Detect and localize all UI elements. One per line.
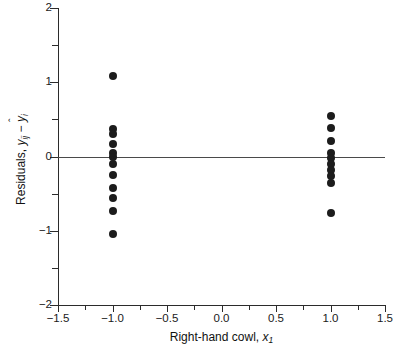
x-tick-major [276,305,277,312]
x-tick-label: −1.5 [30,312,86,324]
data-point [109,130,117,138]
data-point [109,207,117,215]
data-point [109,184,117,192]
x-tick-label: −0.5 [139,312,195,324]
x-tick-major [58,305,59,312]
x-tick-major [331,305,332,312]
x-tick-label: 0.5 [248,312,304,324]
x-tick-minor [249,305,250,310]
data-point [327,179,335,187]
x-tick-minor [194,305,195,310]
y-tick-minor [52,194,58,195]
x-tick-major [385,305,386,312]
x-axis-title-prefix: Right-hand cowl, [170,330,263,344]
x-tick-label: 0.0 [194,312,250,324]
data-point [109,140,117,148]
x-tick-label: −1.0 [85,312,141,324]
x-tick-label: 1.5 [357,312,401,324]
data-point [109,171,117,179]
data-point [109,194,117,202]
residual-scatter-figure: −2−1012−1.5−1.0−0.50.00.51.01.5 Right-ha… [0,0,401,352]
x-tick-minor [85,305,86,310]
y-axis-title-subscript-ij: ij [20,136,30,140]
y-axis-title: Residuals, yij − ˆyi [14,50,29,270]
data-point [327,112,335,120]
y-tick-label: −2 [12,299,52,311]
y-axis-title-minus: − [14,122,28,136]
y-tick-minor [52,268,58,269]
x-tick-label: 1.0 [303,312,359,324]
x-tick-major [222,305,223,312]
zero-reference-line [58,157,385,158]
y-tick-minor [52,119,58,120]
y-axis-title-prefix: Residuals, [14,146,28,205]
x-tick-major [113,305,114,312]
data-point [109,72,117,80]
y-tick-label: 2 [12,2,52,14]
x-axis-title-subscript: 1 [268,335,273,345]
data-point [327,137,335,145]
data-point [327,124,335,132]
x-axis-title: Right-hand cowl, x1 [58,330,385,345]
data-point [109,160,117,168]
x-tick-minor [303,305,304,310]
y-axis-title-variable-observed: y [14,140,28,146]
data-point [327,209,335,217]
x-tick-minor [358,305,359,310]
x-tick-major [167,305,168,312]
data-point [109,230,117,238]
y-tick-minor [52,45,58,46]
y-axis-title-fitted-group: ˆy [14,116,28,122]
x-tick-minor [140,305,141,310]
circumflex-icon: ˆ [8,118,20,122]
